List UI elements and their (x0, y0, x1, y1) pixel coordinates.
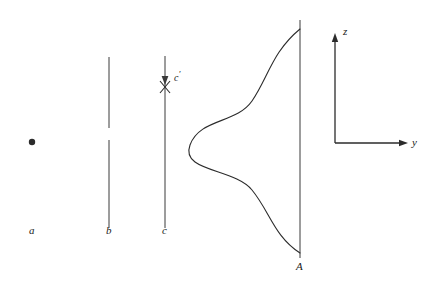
axis-y-arrowhead-icon (399, 140, 408, 146)
label-line-c: c (162, 225, 167, 236)
bell-curve (189, 29, 300, 253)
label-axis-z: z (343, 26, 347, 37)
figure-drawing-canvas (0, 0, 432, 285)
axis-z-arrowhead-icon (332, 33, 338, 42)
label-line-a-capital: A (296, 261, 303, 272)
label-line-c-prime-mark: ′ (178, 69, 180, 79)
label-point-a: a (29, 225, 35, 236)
point-a (29, 139, 35, 145)
label-line-b: b (106, 225, 112, 236)
label-axis-y: y (412, 137, 417, 148)
label-line-c-prime: c′ (174, 70, 180, 83)
figure-container: a b c c′ A z y (0, 0, 432, 285)
